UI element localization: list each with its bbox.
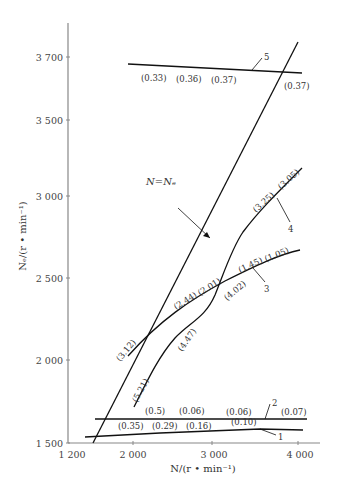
- curve-1-annotation: (0.29): [152, 421, 178, 431]
- curve-1-annotation: (0.16): [186, 421, 212, 431]
- curve-2-annotation: (0.07): [281, 407, 307, 417]
- curve-4-label: 4: [288, 224, 293, 234]
- x-axis-title: N/(r • min⁻¹): [170, 463, 235, 474]
- x-tick-label: 4 000: [286, 449, 313, 460]
- curve-1-annotation: (0.35): [118, 421, 144, 431]
- curve-5-leader: [252, 58, 262, 70]
- curve-1-label: 1: [278, 432, 283, 442]
- curve-5: [128, 64, 302, 73]
- curve-3-annotation: (2.44): [172, 290, 199, 312]
- curve-4-annotation: (4.47): [175, 326, 198, 353]
- curve-2-leader: [265, 404, 270, 419]
- curve-4-annotation: (3.25): [251, 190, 277, 215]
- y-tick-label: 2 500: [36, 273, 63, 284]
- curve-4-annotation: (5.21): [130, 377, 151, 404]
- curve-5-label: 5: [264, 52, 269, 62]
- y-tick-label: 1 500: [36, 438, 63, 449]
- y-tick-label: 2 000: [36, 355, 63, 366]
- y-tick-label: 3 000: [36, 191, 63, 202]
- curve-2-annotation: (0.5): [145, 406, 165, 416]
- x-tick-label: 3 000: [200, 449, 227, 460]
- curve-4-leader: [277, 198, 290, 222]
- curve-4-annotation: (4.02): [222, 278, 248, 302]
- curve-3-leader: [253, 268, 265, 282]
- curve-3: [128, 250, 300, 356]
- curve-n-equals-ne: [93, 42, 298, 443]
- curve-5-annotation: (0.33): [141, 73, 167, 83]
- x-tick-label: 2 000: [119, 449, 146, 460]
- curve-5-annotation: (0.36): [176, 74, 202, 84]
- y-tick-label: 3 500: [36, 115, 63, 126]
- curve-2-annotation: (0.06): [226, 407, 252, 417]
- curve-4: [134, 168, 302, 407]
- curve-4-annotation: (3.05): [276, 167, 302, 192]
- chart: 1 500 2 000 2 500 3 000 3 500 3 700 1 20…: [0, 0, 340, 502]
- y-tick-label: 3 700: [36, 52, 63, 63]
- diag-label: N=Nₑ: [145, 176, 176, 187]
- curve-2-label: 2: [272, 398, 277, 408]
- curve-1-annotation: (0.10): [231, 417, 257, 427]
- curve-2-annotation: (0.06): [179, 406, 205, 416]
- y-axis-title: Nₑ/(r • min⁻¹): [17, 201, 28, 270]
- curve-5-annotation: (0.37): [284, 81, 310, 91]
- curve-3-annotation: (3.12): [114, 337, 138, 363]
- x-tick-label: 1 200: [58, 449, 85, 460]
- curve-3-label: 3: [264, 284, 269, 294]
- curve-5-annotation: (0.37): [211, 75, 237, 85]
- curve-3-annotation: (1.05): [263, 245, 290, 264]
- curve-3-annotation: (1.45): [237, 255, 264, 275]
